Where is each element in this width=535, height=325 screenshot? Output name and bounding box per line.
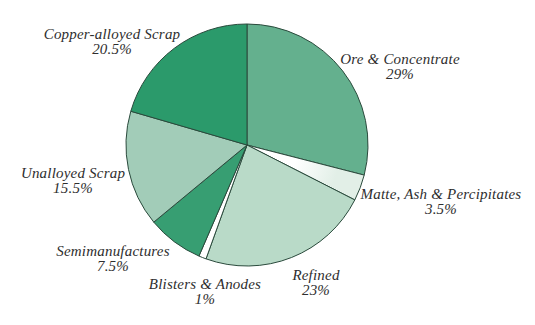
slice-label-text: Unalloyed Scrap	[21, 166, 125, 181]
slice-percent-text: 7.5%	[56, 259, 169, 274]
pie-chart-figure: Copper-alloyed Scrap 20.5% Ore & Concent…	[0, 0, 535, 325]
slice-label-text: Blisters & Anodes	[149, 277, 261, 292]
slice-percent-text: 15.5%	[21, 181, 125, 196]
slice-label-unalloyed-scrap: Unalloyed Scrap 15.5%	[21, 166, 125, 196]
slice-percent-text: 1%	[149, 292, 261, 307]
slice-label-ore-concentrate: Ore & Concentrate 29%	[340, 52, 460, 82]
slice-label-copper-alloyed-scrap: Copper-alloyed Scrap 20.5%	[44, 27, 181, 57]
slice-percent-text: 29%	[340, 67, 460, 82]
slice-percent-text: 3.5%	[361, 202, 522, 217]
slice-label-text: Copper-alloyed Scrap	[44, 27, 181, 42]
slice-label-semimanufactures: Semimanufactures 7.5%	[56, 244, 169, 274]
slice-label-refined: Refined 23%	[292, 268, 339, 298]
slice-label-text: Matte, Ash & Percipitates	[361, 187, 522, 202]
slice-percent-text: 23%	[292, 283, 339, 298]
slice-label-text: Ore & Concentrate	[340, 52, 460, 67]
slice-percent-text: 20.5%	[44, 42, 181, 57]
slice-label-matte-ash-percipitates: Matte, Ash & Percipitates 3.5%	[361, 187, 522, 217]
slice-label-text: Semimanufactures	[56, 244, 169, 259]
slice-label-text: Refined	[292, 268, 339, 283]
slice-label-blisters-anodes: Blisters & Anodes 1%	[149, 277, 261, 307]
